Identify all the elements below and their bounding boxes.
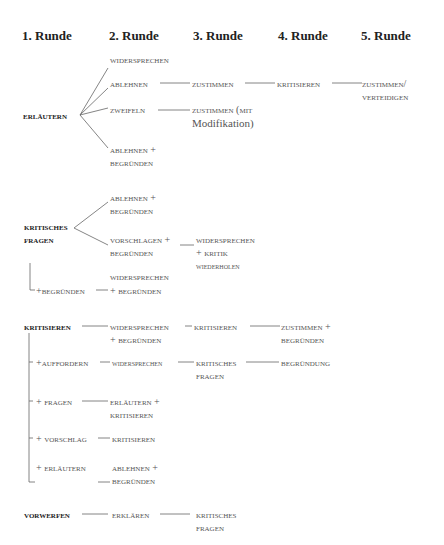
node-widersprechen-begruenden-l1: Widersprechen xyxy=(110,271,169,283)
node-zustimmen: Zustimmen xyxy=(192,78,234,90)
node-zustimmen-verteidigen-l1: Zustimmen/ xyxy=(362,78,406,90)
node-ablehnen-begruenden-l2: Begründen xyxy=(110,157,153,169)
node-kritisches-fragen-4-l1: Kritisches xyxy=(196,509,236,521)
node-ablehnen-begruenden-2-l2: Begründen xyxy=(110,205,153,217)
node-erlaeutern: Erläutern xyxy=(23,110,67,122)
node-erlaeutern-kritisieren-l1: Erläutern + xyxy=(110,396,160,408)
node-kritisches-fragen-r3-l1: Kritisches xyxy=(196,357,236,369)
node-ablehnen-begruenden-l1: Ablehnen + xyxy=(110,144,156,156)
node-widersprechen-kritik-l3: wiederholen xyxy=(196,260,240,272)
node-vorschlagen-begruenden-l2: Begründen xyxy=(110,247,153,259)
node-plus-fragen: + Fragen xyxy=(36,396,72,408)
node-ablehnen-begruenden-3-l2: Begründen xyxy=(112,475,155,487)
node-kritisieren-r3: Kritisieren xyxy=(194,321,237,333)
node-zustimmen-mit-l2: Modifikation) xyxy=(192,117,254,129)
node-plus-begruenden: +Begründen xyxy=(36,285,85,297)
node-kritisches-fragen-r3-l2: Fragen xyxy=(196,370,224,382)
node-ablehnen: Ablehnen xyxy=(110,78,148,90)
node-zustimmen-mit-l1: Zustimmen (mit xyxy=(192,104,252,116)
node-plus-erlaeutern: + Erläutern xyxy=(36,462,86,474)
node-erklaeren: Erklären xyxy=(112,509,149,521)
node-plus-vorschlag: + Vorschlag xyxy=(36,433,87,445)
node-vorschlagen-begruenden-l1: Vorschlagen + xyxy=(110,234,170,246)
node-widersprechen: Widersprechen xyxy=(110,54,169,66)
node-widersprechen-kritik-l2: + Kritik xyxy=(196,247,228,259)
node-zustimmen-begruenden-l2: Begründen xyxy=(281,334,324,346)
node-vorwerfen: Vorwerfen xyxy=(24,509,70,521)
node-kritisches-fragen-4-l2: Fragen xyxy=(196,522,224,534)
node-ablehnen-begruenden-3-l1: Ablehnen + xyxy=(112,462,158,474)
node-begruendung: Begründung xyxy=(281,357,330,369)
node-zweifeln: Zweifeln xyxy=(110,104,145,116)
node-kritisieren-root: Kritisieren xyxy=(24,321,71,333)
node-widersprechen-begruenden-l2: + Begründen xyxy=(110,285,161,297)
node-widersprechen-lower: widersprechen xyxy=(112,357,162,369)
node-ablehnen-begruenden-2-l1: Ablehnen + xyxy=(110,192,156,204)
node-erlaeutern-kritisieren-l2: Kritisieren xyxy=(110,409,153,421)
node-kritisches-fragen-l2: Fragen xyxy=(24,234,54,246)
node-widersprechen-begruenden-3-l1: Widersprechen xyxy=(110,321,169,333)
node-zustimmen-begruenden-l1: Zustimmen + xyxy=(281,321,331,333)
node-kritisieren: Kritisieren xyxy=(277,78,320,90)
node-kritisches-fragen-l1: Kritisches xyxy=(24,221,68,233)
node-widersprechen-begruenden-3-l2: + Begründen xyxy=(110,334,161,346)
node-kritisieren-vorschlag: Kritisieren xyxy=(112,433,155,445)
node-plus-auffordern: +Auffordern xyxy=(36,357,88,369)
node-widersprechen-kritik-l1: Widersprechen xyxy=(196,234,255,246)
node-zustimmen-verteidigen-l2: Verteidigen xyxy=(362,91,408,103)
